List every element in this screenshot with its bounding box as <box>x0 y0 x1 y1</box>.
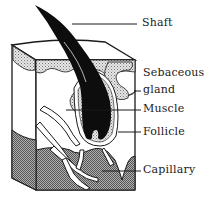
label-sebaceous-gland-line1: Sebaceous <box>143 67 204 79</box>
label-shaft: Shaft <box>142 17 173 29</box>
hair-follicle-diagram: Shaft Sebaceous gland Muscle Follicle Ca… <box>0 0 211 199</box>
label-capillary: Capillary <box>143 164 195 176</box>
label-sebaceous-gland-line2: gland <box>143 84 175 96</box>
label-follicle: Follicle <box>143 126 185 138</box>
label-muscle: Muscle <box>143 103 184 115</box>
